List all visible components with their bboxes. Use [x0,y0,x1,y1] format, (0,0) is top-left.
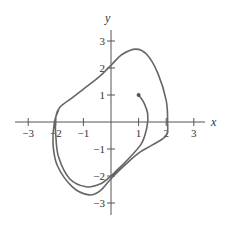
x-tick-label: −3 [22,127,34,139]
y-axis-label: y [104,11,111,25]
phase-plot: −3−2−1123 −3−2−1123 x y [0,0,233,225]
x-tick-label: −1 [78,127,90,139]
y-tick-label: 1 [100,89,106,101]
x-ticks: −3−2−1123 [22,118,197,139]
y-tick-label: −3 [93,197,105,209]
plot-canvas: −3−2−1123 −3−2−1123 x y [0,0,233,225]
x-axis-label: x [210,115,217,129]
x-tick-label: 3 [191,127,197,139]
x-tick-label: 1 [136,127,142,139]
y-tick-label: −1 [93,143,105,155]
start-point-marker [137,93,141,97]
y-tick-label: 3 [100,35,106,47]
y-tick-label: −2 [93,170,105,182]
